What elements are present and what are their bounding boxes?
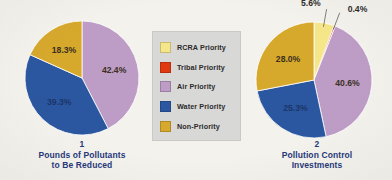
chart-1-number: 1 [8,139,156,150]
chart-2-number: 2 [242,139,392,150]
legend-item-rcra-priority[interactable]: RCRA Priority [160,38,235,58]
pie-slice-label-rcra-priority: 5.6% [301,0,321,8]
pie-slice-label-air-priority: 40.6% [335,78,360,88]
chart-2-caption: 2 Pollution Control Investments [242,139,392,171]
legend-item-water-priority[interactable]: Water Priority [160,97,235,117]
pie-slice-label-water-priority: 39.3% [47,97,72,107]
pie-slice-label-tribal-priority: 0.4% [348,4,368,14]
pie-2-canvas: 5.6%0.4%40.6%25.3%28.0% [242,0,392,140]
chart-pollution-control-investments: 5.6%0.4%40.6%25.3%28.0% 2 Pollution Cont… [242,0,392,180]
pie-1-canvas: 42.4%39.3%18.3% [8,0,156,140]
pie-slice-label-non-priority: 28.0% [276,54,301,64]
pie-2-svg: 5.6%0.4%40.6%25.3%28.0% [242,0,392,140]
chart-pounds-of-pollutants: 42.4%39.3%18.3% 1 Pounds of Pollutants t… [8,0,156,180]
legend-item-air-priority[interactable]: Air Priority [160,77,235,97]
pie-slice-label-air-priority: 42.4% [102,65,127,75]
legend-label-rcra-priority: RCRA Priority [177,43,226,52]
pie-slice-label-non-priority: 18.3% [52,45,77,55]
legend-item-non-priority[interactable]: Non-Priority [160,116,235,136]
legend-label-water-priority: Water Priority [177,102,225,111]
legend-swatch-water-priority [160,101,171,112]
chart-2-caption-line-2: Investments [242,160,392,171]
chart-1-caption: 1 Pounds of Pollutants to Be Reduced [8,139,156,171]
legend-item-tribal-priority[interactable]: Tribal Priority [160,58,235,78]
legend-label-tribal-priority: Tribal Priority [177,63,225,72]
legend-label-air-priority: Air Priority [177,82,215,91]
legend-label-non-priority: Non-Priority [177,122,220,131]
legend-swatch-rcra-priority [160,42,171,53]
pie-chart-figure: 42.4%39.3%18.3% 1 Pounds of Pollutants t… [0,0,392,180]
chart-1-caption-line-2: to Be Reduced [8,160,156,171]
pie-1-svg: 42.4%39.3%18.3% [8,0,156,140]
chart-legend: RCRA Priority Tribal Priority Air Priori… [152,31,241,141]
legend-swatch-air-priority [160,81,171,92]
legend-swatch-non-priority [160,121,171,132]
chart-2-caption-line-1: Pollution Control [242,150,392,161]
pie-slice-label-water-priority: 25.3% [283,103,308,113]
chart-1-caption-line-1: Pounds of Pollutants [8,150,156,161]
legend-swatch-tribal-priority [160,62,171,73]
